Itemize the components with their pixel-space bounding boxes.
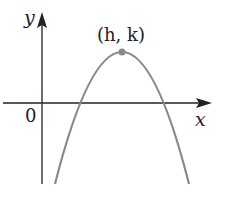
origin-label: 0 [25, 105, 36, 126]
vertex-point [119, 49, 126, 56]
parabola-curve [55, 52, 189, 184]
y-axis-label: y [23, 6, 35, 28]
vertex-label: (h, k) [97, 24, 145, 45]
x-axis-label: x [195, 108, 206, 130]
parabola-diagram: y x 0 (h, k) [0, 0, 227, 204]
